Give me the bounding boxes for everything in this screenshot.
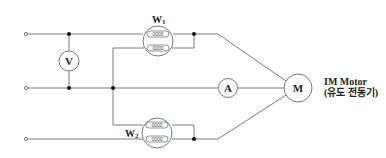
motor: M — [284, 74, 312, 102]
wattmeter-2: 0000 0000 W 2 — [125, 118, 172, 148]
svg-text:W: W — [152, 14, 162, 25]
motor-caption: IM Motor (유도 전동기) — [324, 76, 378, 98]
motor-caption-line1: IM Motor — [324, 76, 378, 87]
svg-text:0000: 0000 — [151, 122, 162, 128]
svg-text:0000: 0000 — [151, 136, 162, 142]
junction — [192, 137, 196, 141]
svg-text:M: M — [293, 82, 304, 94]
junction — [67, 32, 71, 36]
svg-text:1: 1 — [162, 18, 166, 26]
wattmeter-1: 0000 0000 W 1 — [143, 14, 173, 56]
svg-text:W: W — [125, 128, 135, 139]
svg-text:V: V — [65, 55, 73, 67]
voltmeter: V — [59, 51, 79, 71]
junction — [67, 86, 71, 90]
svg-text:0000: 0000 — [152, 31, 163, 37]
svg-text:0000: 0000 — [152, 45, 163, 51]
terminal-bottom — [24, 137, 27, 140]
motor-caption-line2: (유도 전동기) — [324, 87, 378, 98]
terminal-top — [24, 32, 27, 35]
junction — [192, 32, 196, 36]
junction — [111, 86, 115, 90]
svg-text:2: 2 — [135, 132, 139, 140]
svg-text:A: A — [224, 82, 232, 94]
terminal-middle — [24, 86, 27, 89]
ammeter: A — [219, 79, 238, 98]
